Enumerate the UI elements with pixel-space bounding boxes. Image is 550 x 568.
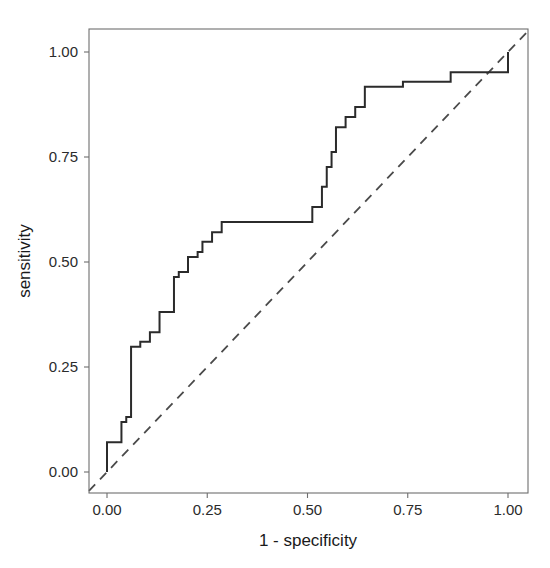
x-axis: 0.000.250.500.751.00 <box>92 493 522 518</box>
roc-plot-svg: 0.000.250.500.751.00 0.000.250.500.751.0… <box>0 0 550 568</box>
y-axis: 0.000.250.500.751.00 <box>49 43 89 480</box>
plot-panel-background <box>89 29 528 493</box>
x-tick-label: 0.25 <box>193 501 222 518</box>
roc-figure: 0.000.250.500.751.00 0.000.250.500.751.0… <box>0 0 550 568</box>
y-tick-label: 0.00 <box>49 463 78 480</box>
x-tick-label: 1.00 <box>493 501 522 518</box>
y-tick-label: 0.25 <box>49 358 78 375</box>
y-axis-title: sensitivity <box>15 224 34 298</box>
x-tick-label: 0.00 <box>92 501 121 518</box>
y-tick-label: 1.00 <box>49 43 78 60</box>
y-tick-label: 0.75 <box>49 148 78 165</box>
y-tick-label: 0.50 <box>49 253 78 270</box>
x-tick-label: 0.75 <box>393 501 422 518</box>
x-tick-label: 0.50 <box>293 501 322 518</box>
x-axis-title: 1 - specificity <box>259 531 358 550</box>
